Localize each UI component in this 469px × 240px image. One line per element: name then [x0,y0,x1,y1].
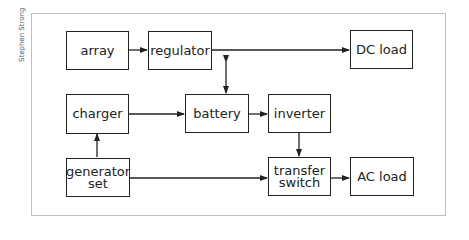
node-transfer-switch: transfer switch [268,157,331,196]
node-label: battery [193,108,240,120]
node-label: AC load [357,171,407,183]
node-label: set [88,178,108,190]
node-generator-set: generator set [66,158,130,197]
node-label: charger [72,108,122,120]
node-label: array [80,45,114,57]
node-label: DC load [356,44,407,56]
node-battery: battery [185,94,249,133]
node-label: regulator [150,45,210,57]
node-array: array [66,31,129,70]
node-label: switch [279,177,321,189]
node-charger: charger [66,94,129,134]
node-ac-load: AC load [350,157,414,196]
node-dc-load: DC load [350,30,413,69]
node-inverter: inverter [268,94,331,133]
node-regulator: regulator [148,31,212,70]
node-label: inverter [274,108,325,120]
